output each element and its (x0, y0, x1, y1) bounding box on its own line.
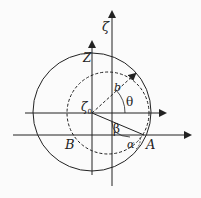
theta-label: θ (126, 96, 133, 108)
point-A-label: A (146, 138, 155, 151)
b-label: b (114, 82, 121, 93)
alpha-label: α (127, 139, 134, 150)
diagram: ζ Z ζ0 b θ β α A B (0, 0, 201, 198)
point-B-label: B (65, 138, 75, 151)
z-axis-label: Z (83, 52, 91, 64)
zeta0-subscript: 0 (88, 108, 92, 116)
zeta-axis-label: ζ (102, 20, 109, 33)
beta-label: β (113, 123, 120, 135)
zeta0-label: ζ0 (81, 101, 92, 116)
diagram-svg (0, 0, 201, 198)
